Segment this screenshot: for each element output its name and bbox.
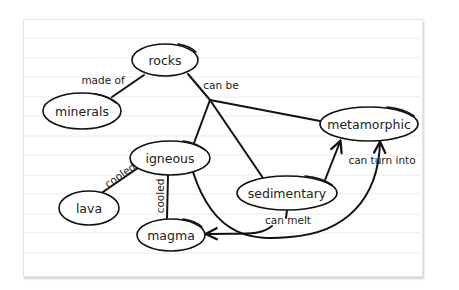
node-rocks-label: rocks [148,53,181,68]
edge-junction-igneous [194,100,210,143]
edge-junction-metamorphic [210,100,320,121]
label-made-of: made of [81,74,125,86]
label-cooled-magma: cooled [154,179,166,214]
label-can-melt: can melt [265,214,311,226]
node-magma-label: magma [147,228,195,243]
node-minerals[interactable]: minerals [43,93,121,129]
edge-junction-sedimentary [210,100,263,178]
node-lava-label: lava [76,201,102,216]
node-rocks[interactable]: rocks [132,44,198,76]
node-metamorphic[interactable]: metamorphic [320,107,418,141]
concept-map: made of can be cooled cooled can turn in… [0,0,459,290]
node-magma[interactable]: magma [137,219,205,251]
label-can-turn-into: can turn into [348,154,415,166]
node-sedimentary[interactable]: sedimentary [237,176,337,210]
node-sedimentary-label: sedimentary [248,186,327,201]
node-lava[interactable]: lava [59,191,119,225]
label-can-be: can be [203,79,238,91]
edge-sedimentary-metamorphic [325,142,340,180]
node-igneous-label: igneous [145,151,194,166]
edge-igneous-magma [167,175,168,218]
node-minerals-label: minerals [55,104,109,119]
node-metamorphic-label: metamorphic [327,117,411,132]
node-igneous[interactable]: igneous [130,141,210,175]
